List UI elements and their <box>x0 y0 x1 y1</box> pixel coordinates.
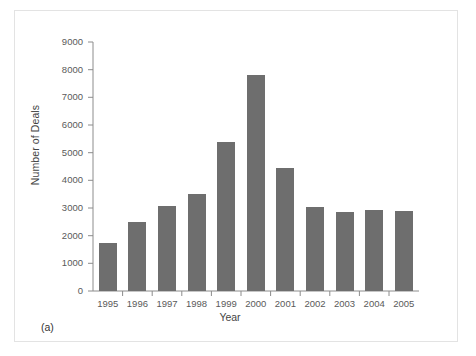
figure-panel: 0 1000 2000 3000 4000 5000 6000 7000 800… <box>14 10 458 342</box>
figure-caption: (a) <box>41 321 54 333</box>
y-tick-label: 4000 <box>39 175 83 185</box>
y-tick-label: 8000 <box>39 65 83 75</box>
y-tick-label: 9000 <box>39 37 83 47</box>
y-tick-label: 5000 <box>39 148 83 158</box>
bar-1998 <box>188 194 206 291</box>
bar-2002 <box>306 207 324 291</box>
bar-1999 <box>217 142 235 291</box>
bar-2000 <box>247 75 265 291</box>
y-tick-label: 6000 <box>39 120 83 130</box>
y-axis-title: Number of Deals <box>29 65 41 225</box>
bar-2003 <box>336 212 354 291</box>
y-tick-label: 2000 <box>39 231 83 241</box>
bar-2001 <box>276 168 294 291</box>
x-tick-label: 2005 <box>387 299 421 309</box>
bar-1995 <box>99 243 117 291</box>
bar-1996 <box>128 222 146 291</box>
bar-2005 <box>395 211 413 291</box>
bar-1997 <box>158 206 176 291</box>
y-tick-label: 3000 <box>39 203 83 213</box>
y-tick-label: 1000 <box>39 258 83 268</box>
bar-chart: 0 1000 2000 3000 4000 5000 6000 7000 800… <box>15 11 459 343</box>
bar-2004 <box>365 210 383 291</box>
y-tick-label: 7000 <box>39 92 83 102</box>
y-tick-label: 0 <box>39 286 83 296</box>
x-axis-title: Year <box>75 311 385 323</box>
